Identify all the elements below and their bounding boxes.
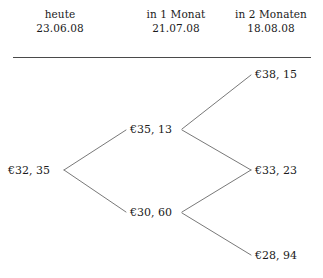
column-header-month-1: in 1 Monat 21.07.08 [124,0,228,35]
column-date: 21.07.08 [124,22,228,35]
edge-s1u-s2ud [182,130,251,170]
column-label: in 2 Monaten [222,8,320,21]
edge-s1u-s2uu [182,75,251,129]
edge-s1d-s2dd [182,213,251,255]
column-label: heute [8,8,112,21]
column-date: 18.08.08 [222,22,320,35]
tree-node-s1-down: €30, 60 [130,207,178,218]
tree-node-s2-middle: €33, 23 [255,165,311,176]
column-header-row: heute 23.06.08 in 1 Monat 21.07.08 in 2 … [0,0,323,57]
edge-s0-s1u [64,130,126,170]
tree-node-s1-up: €35, 13 [130,124,178,135]
column-label: in 1 Monat [124,8,228,21]
edge-s0-s1d [64,170,126,212]
tree-node-s2-down-down: €28, 94 [255,250,311,261]
column-date: 23.06.08 [8,22,112,35]
tree-node-s2-up-up: €38, 15 [255,69,311,80]
column-header-today: heute 23.06.08 [8,0,112,35]
column-header-month-2: in 2 Monaten 18.08.08 [222,0,320,35]
edge-s1d-s2ud [182,170,251,212]
tree-area: €32, 35 €35, 13 €30, 60 €38, 15 €33, 23 … [0,57,323,278]
tree-node-s0: €32, 35 [8,165,60,176]
binomial-tree-figure: heute 23.06.08 in 1 Monat 21.07.08 in 2 … [0,0,323,278]
